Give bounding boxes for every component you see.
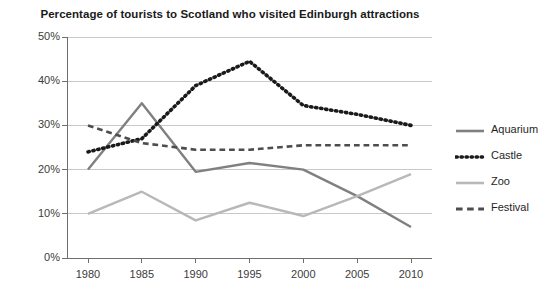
legend-label: Castle — [491, 149, 522, 161]
legend-label: Aquarium — [491, 123, 538, 135]
legend-item-aquarium[interactable]: Aquarium — [455, 116, 553, 142]
legend-item-castle[interactable]: Castle — [455, 142, 553, 168]
series-lines — [88, 61, 411, 227]
series-line-castle — [88, 61, 411, 152]
y-tick-label: 50% — [18, 30, 60, 42]
chart-legend: AquariumCastleZooFestival — [455, 116, 553, 220]
x-tick-label: 2005 — [334, 268, 380, 280]
x-tick-label: 2000 — [280, 268, 326, 280]
legend-item-festival[interactable]: Festival — [455, 194, 553, 220]
gridlines — [67, 37, 432, 258]
x-tick-label: 1990 — [173, 268, 219, 280]
axis-ticks — [62, 37, 411, 263]
x-tick-label: 2010 — [388, 268, 434, 280]
x-tick-label: 1995 — [227, 268, 273, 280]
x-tick-label: 1980 — [65, 268, 111, 280]
series-line-aquarium — [88, 103, 411, 227]
y-tick-label: 10% — [18, 207, 60, 219]
y-tick-label: 30% — [18, 118, 60, 130]
chart-container: Percentage of tourists to Scotland who v… — [0, 0, 553, 308]
y-tick-label: 0% — [18, 251, 60, 263]
legend-swatch-festival — [455, 201, 485, 213]
y-tick-label: 40% — [18, 74, 60, 86]
legend-swatch-zoo — [455, 175, 485, 187]
legend-item-zoo[interactable]: Zoo — [455, 168, 553, 194]
legend-swatch-castle — [455, 149, 485, 161]
legend-swatch-aquarium — [455, 123, 485, 135]
series-line-festival — [88, 125, 411, 149]
x-tick-label: 1985 — [119, 268, 165, 280]
legend-label: Zoo — [491, 175, 510, 187]
y-tick-label: 20% — [18, 163, 60, 175]
legend-label: Festival — [491, 201, 529, 213]
